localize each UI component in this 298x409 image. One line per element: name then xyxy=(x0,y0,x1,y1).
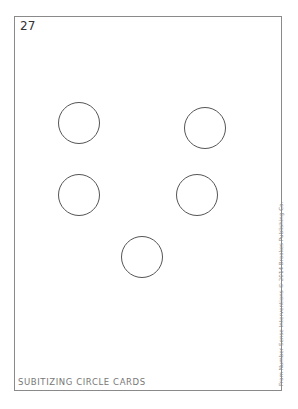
circle-dot xyxy=(58,174,100,216)
copyright-credit: From Number Sense Interventions © 2014 B… xyxy=(278,202,284,386)
circle-dot xyxy=(58,102,100,144)
subitizing-card xyxy=(14,16,282,391)
circle-dot xyxy=(121,236,163,278)
card-footer-title: SUBITIZING CIRCLE CARDS xyxy=(18,377,146,387)
card-number: 27 xyxy=(20,19,35,33)
circle-dot xyxy=(184,107,226,149)
circle-dot xyxy=(176,174,218,216)
